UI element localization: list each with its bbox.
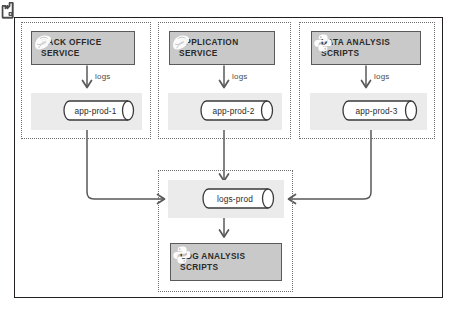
python-icon — [171, 244, 193, 266]
diagram-canvas: BACK OFFICE SERVICE APPLICATION SERVICE … — [0, 0, 458, 315]
service-box-log-analysis[interactable]: LOG ANALYSIS SCRIPTS — [170, 243, 282, 281]
connector-app-prod-1-to-logs-prod — [87, 130, 165, 204]
host-cylinder-app-prod-2[interactable]: app-prod-2 — [200, 100, 274, 121]
edge-label-logs-2: logs — [232, 72, 247, 81]
ruby-gem-icon — [32, 32, 54, 54]
python-icon — [312, 32, 334, 54]
edge-label-logs-3: logs — [374, 72, 389, 81]
host-name-app-prod-1: app-prod-1 — [63, 100, 135, 121]
host-cylinder-app-prod-1[interactable]: app-prod-1 — [63, 100, 135, 121]
host-name-app-prod-3: app-prod-3 — [342, 100, 418, 121]
connector-app-prod-3-to-logs-prod — [289, 130, 372, 204]
service-label-application: APPLICATION SERVICE — [179, 37, 274, 60]
service-label-back-office: BACK OFFICE SERVICE — [41, 37, 134, 60]
service-box-data-analysis[interactable]: DATA ANALYSIS SCRIPTS — [311, 31, 421, 65]
service-label-data-analysis: DATA ANALYSIS SCRIPTS — [321, 37, 420, 60]
host-cylinder-logs-prod[interactable]: logs-prod — [202, 188, 275, 209]
ruby-gem-icon — [170, 32, 192, 54]
service-box-back-office[interactable]: BACK OFFICE SERVICE — [31, 31, 135, 65]
host-cylinder-app-prod-3[interactable]: app-prod-3 — [342, 100, 418, 121]
host-name-app-prod-2: app-prod-2 — [200, 100, 274, 121]
service-label-log-analysis: LOG ANALYSIS SCRIPTS — [180, 251, 281, 274]
edge-label-logs-1: logs — [95, 72, 110, 81]
host-name-logs-prod: logs-prod — [202, 188, 275, 209]
factory-icon — [0, 0, 20, 20]
service-box-application[interactable]: APPLICATION SERVICE — [169, 31, 275, 65]
